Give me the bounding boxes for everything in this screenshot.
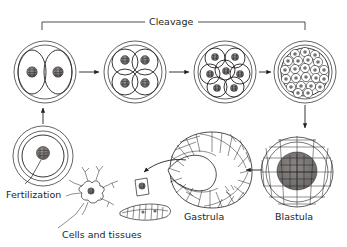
muscle-cell [120,204,171,220]
cells-and-tissues-label: Cells and tissues [62,229,142,240]
stage-gastrula [168,132,252,208]
epithelial-cell [135,178,149,196]
stage-four-cell [104,41,166,103]
nucleus [141,56,150,65]
nucleus [141,79,150,88]
nucleus [211,53,218,60]
stage-morula [274,41,336,103]
nucleus [27,67,37,77]
nucleus [121,56,130,65]
fertilization-label: Fertilization [6,189,61,200]
stage-eight-cell [194,41,256,103]
cleavage-label: Cleavage [149,16,193,27]
figure-canvas: Fertilization Blastula [0,0,347,247]
zygote-nucleus [37,147,50,160]
neuron-axon [58,203,84,228]
nucleus [230,84,237,91]
nucleus [213,84,220,91]
gastrula-label: Gastrula [184,211,224,222]
nucleus [231,53,238,60]
fertilization-leader-line [31,160,41,178]
stage-zygote [13,126,73,186]
embryo-development-diagram: Fertilization Blastula [0,0,347,247]
nucleus [121,79,130,88]
stage-two-cell [14,41,76,103]
nucleus [206,70,213,77]
nucleus [222,67,229,74]
stage-blastula [261,136,333,207]
nucleus [236,70,243,77]
differentiated-cells [58,166,171,228]
muscle-striations [122,205,168,220]
nucleus [53,67,63,77]
blastula-label: Blastula [275,211,313,222]
neuron-cell [58,166,118,228]
